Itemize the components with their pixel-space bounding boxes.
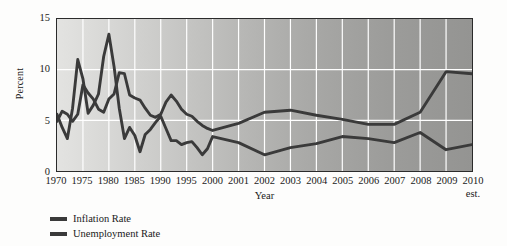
x-axis-tick-1985: 1985: [124, 175, 145, 186]
x-axis-tick-2003: 2003: [280, 175, 301, 186]
legend-swatch-icon: [50, 217, 67, 221]
y-axis-tick-10: 10: [28, 64, 50, 74]
chart-legend: Inflation RateUnemployment Rate: [50, 211, 160, 241]
x-axis-tick-2007: 2007: [384, 175, 405, 186]
legend-swatch-icon: [50, 232, 67, 236]
x-axis-tick-2008: 2008: [410, 175, 431, 186]
x-axis-tick-1990: 1990: [150, 175, 171, 186]
x-axis-tick-1970: 1970: [46, 175, 67, 186]
legend-item-2[interactable]: Unemployment Rate: [50, 226, 160, 241]
x-axis-tick-1980: 1980: [98, 175, 119, 186]
y-axis-tick-15: 15: [28, 13, 50, 23]
legend-label: Inflation Rate: [73, 213, 131, 224]
legend-label: Unemployment Rate: [73, 228, 160, 239]
x-axis-title: Year: [56, 190, 473, 201]
chart-figure: Percent 151050 1970197519801985199019952…: [0, 0, 507, 246]
x-axis-tick-2005: 2005: [332, 175, 353, 186]
x-axis-tick-2009: 2009: [436, 175, 457, 186]
x-axis-tick-2010: 2010: [463, 175, 484, 186]
x-axis-tick-2000: 2000: [202, 175, 223, 186]
x-axis-tick-1995: 1995: [176, 175, 197, 186]
x-axis-tick-2001: 2001: [228, 175, 249, 186]
y-axis-tick-5: 5: [28, 116, 50, 126]
plot-area: [56, 18, 473, 172]
y-axis-title: Percent: [14, 44, 25, 124]
x-axis-tick-2006: 2006: [358, 175, 379, 186]
x-axis-tick-1975: 1975: [72, 175, 93, 186]
x-axis-tick-2004: 2004: [306, 175, 327, 186]
legend-item-1[interactable]: Inflation Rate: [50, 211, 160, 226]
x-axis-tick-2002: 2002: [254, 175, 275, 186]
chart-lines-svg: [57, 19, 472, 171]
